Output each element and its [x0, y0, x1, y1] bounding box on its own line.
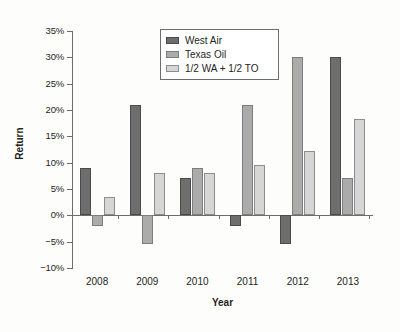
- x-axis-tick-label: 2009: [123, 276, 171, 287]
- bar: [280, 215, 291, 244]
- legend-entry: Texas Oil: [166, 47, 273, 61]
- bar: [330, 57, 341, 215]
- bar: [154, 173, 165, 215]
- bar: [104, 197, 115, 215]
- legend-label: West Air: [185, 35, 222, 46]
- bar: [192, 168, 203, 215]
- legend-entry: West Air: [166, 33, 273, 47]
- bar: [142, 215, 153, 244]
- bar-chart-figure: Return 35%30%25%20%15%10%5%0%−5%−10% 200…: [0, 0, 400, 332]
- x-axis-title: Year: [72, 297, 373, 308]
- y-axis-tick-label: 5%: [24, 183, 64, 194]
- x-axis-tick-label: 2008: [73, 276, 121, 287]
- bar: [242, 105, 253, 216]
- dark-gray-swatch: [166, 37, 179, 44]
- legend-label: Texas Oil: [185, 49, 226, 60]
- y-axis-tick-label: 25%: [24, 78, 64, 89]
- bar: [342, 178, 353, 215]
- y-axis-line: [72, 31, 73, 269]
- x-axis-tick-mark: [168, 215, 169, 219]
- x-axis-tick-mark: [319, 215, 320, 219]
- legend-label: 1/2 WA + 1/2 TO: [185, 63, 258, 74]
- legend-entry: 1/2 WA + 1/2 TO: [166, 61, 273, 75]
- y-axis-tick-label: 0%: [24, 209, 64, 220]
- bar: [80, 168, 91, 215]
- y-axis-tick-label: 10%: [24, 157, 64, 168]
- medium-gray-swatch: [166, 51, 179, 58]
- bar: [304, 151, 315, 216]
- x-axis-tick-mark: [369, 215, 370, 219]
- bar: [180, 178, 191, 215]
- y-axis-tick-mark: [67, 163, 72, 164]
- x-axis-zero-line: [72, 215, 373, 216]
- x-axis-tick-mark: [219, 215, 220, 219]
- y-axis-tick-label: −5%: [24, 236, 64, 247]
- y-axis-tick-mark: [67, 189, 72, 190]
- y-axis-tick-mark: [67, 31, 72, 32]
- bar: [130, 105, 141, 216]
- bar: [254, 165, 265, 215]
- x-axis-tick-label: 2012: [274, 276, 322, 287]
- y-axis-tick-mark: [67, 215, 72, 216]
- chart-legend: West AirTexas Oil1/2 WA + 1/2 TO: [160, 29, 279, 80]
- y-axis-tick-label: −10%: [24, 262, 64, 273]
- y-axis-tick-mark: [67, 84, 72, 85]
- x-axis-tick-label: 2013: [324, 276, 372, 287]
- y-axis-tick-mark: [67, 136, 72, 137]
- y-axis-tick-label: 30%: [24, 51, 64, 62]
- y-axis-tick-mark: [67, 268, 72, 269]
- y-axis-tick-mark: [67, 242, 72, 243]
- y-axis-tick-label: 20%: [24, 104, 64, 115]
- y-axis-tick-label: 35%: [24, 25, 64, 36]
- bar: [354, 119, 365, 215]
- x-axis-tick-mark: [118, 215, 119, 219]
- y-axis-tick-label: 15%: [24, 130, 64, 141]
- bar: [92, 215, 103, 226]
- bar: [204, 173, 215, 215]
- y-axis-tick-mark: [67, 110, 72, 111]
- x-axis-tick-label: 2010: [173, 276, 221, 287]
- y-axis-tick-mark: [67, 57, 72, 58]
- bar: [292, 57, 303, 215]
- x-axis-tick-mark: [269, 215, 270, 219]
- x-axis-tick-label: 2011: [224, 276, 272, 287]
- y-axis-tick-labels: 35%30%25%20%15%10%5%0%−5%−10%: [20, 0, 64, 332]
- bar: [230, 215, 241, 226]
- light-gray-swatch: [166, 65, 179, 72]
